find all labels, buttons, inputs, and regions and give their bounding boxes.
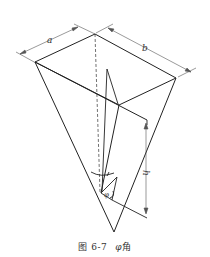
dashed-center-line bbox=[95, 34, 100, 192]
pyramid-outline bbox=[35, 34, 176, 232]
caption-number: 图 6-7 bbox=[78, 242, 107, 252]
label-phi: φ bbox=[104, 191, 109, 199]
label-b: b bbox=[142, 43, 148, 53]
lower-triangle bbox=[91, 172, 147, 218]
dimension-a bbox=[16, 24, 95, 63]
dimension-h bbox=[144, 123, 148, 214]
caption-title: 角 bbox=[122, 242, 132, 252]
spike-triangle bbox=[102, 69, 147, 192]
phi-angle-diagram: a b φ h bbox=[0, 0, 210, 257]
label-h: h bbox=[141, 170, 151, 176]
label-a: a bbox=[47, 35, 52, 45]
figure-caption: 图 6-7φ角 bbox=[0, 240, 210, 253]
